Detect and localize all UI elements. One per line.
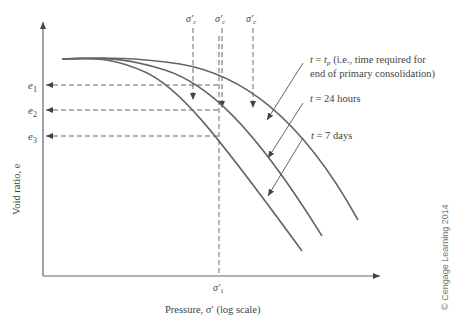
tp-label-line2: end of primary consolidation) [310, 68, 436, 80]
y-axis-title: Void ratio, e [11, 163, 22, 215]
preconsolidation-markers [193, 28, 253, 108]
sigc-label-2: σ′c [215, 13, 226, 26]
e1-label: e1 [28, 79, 37, 94]
label-arrows [267, 63, 303, 196]
copyright-notice: © Cengage Learning 2014 [440, 204, 450, 310]
t24-arrow [268, 103, 303, 158]
t7-label: t = 7 days [311, 130, 352, 141]
curves [62, 58, 358, 251]
consolidation-diagram: e1 e2 e3 σ′c σ′c σ′c σ′1 t = tp (i.e., t… [0, 0, 458, 330]
e3-label: e3 [28, 130, 37, 145]
sigc-label-3: σ′c [246, 13, 257, 26]
sigc-label-1: σ′c [186, 13, 197, 26]
t24-label: t = 24 hours [310, 93, 361, 104]
sigma1-label: σ′1 [213, 282, 224, 295]
tp-label-line1: t = tp (i.e., time required for [310, 54, 426, 67]
x-axis-title: Pressure, σ′ (log scale) [165, 304, 261, 316]
t7-arrow [268, 138, 303, 196]
e2-label: e2 [28, 104, 37, 119]
